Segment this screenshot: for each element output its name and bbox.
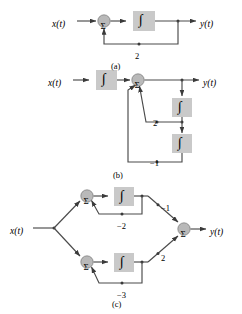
figure-canvas: x(t) y(t) Σ ∫ 2 (a) x(t) y(t) Σ ∫ ∫ ∫ 2 … <box>0 0 242 314</box>
sublabel-c: (c) <box>112 293 121 311</box>
input-label-a: x(t) <box>52 13 65 31</box>
gain-label-b-lower: −1 <box>150 152 159 170</box>
output-label-c: y(t) <box>210 221 223 239</box>
summer-symbol-b: Σ <box>135 74 140 92</box>
sublabel-a: (a) <box>111 55 120 73</box>
integrator-symbol-c-upper: ∫ <box>120 186 124 204</box>
sublabel-b: (b) <box>113 164 123 182</box>
output-label-a: y(t) <box>200 13 213 31</box>
integrator-symbol-b3: ∫ <box>178 133 182 151</box>
summer-symbol-c-upper: Σ <box>84 190 89 208</box>
output-label-b: y(t) <box>203 72 216 90</box>
gain-node-c-out-upper <box>157 203 160 206</box>
wire-split-to-lower-summer-c <box>54 228 80 256</box>
summer-symbol-c-output: Σ <box>181 223 186 241</box>
gain-label-c-output-lower: 2 <box>161 247 165 265</box>
integrator-symbol-c-lower: ∫ <box>120 252 124 270</box>
wire-split-to-upper-summer-c <box>54 201 80 228</box>
integrator-block-c-lower <box>114 253 134 272</box>
summer-symbol-a: Σ <box>101 15 106 33</box>
integrator-block-b3 <box>172 134 192 153</box>
gain-node-c-out-lower <box>157 252 160 255</box>
integrator-block-b1 <box>96 70 117 90</box>
input-label-b: x(t) <box>48 72 61 90</box>
integrator-symbol-a: ∫ <box>139 10 143 28</box>
integrator-symbol-b1: ∫ <box>102 69 106 87</box>
integrator-symbol-b2: ∫ <box>178 97 182 115</box>
summer-symbol-c-lower: Σ <box>84 256 89 274</box>
gain-label-a-feedback: 2 <box>135 45 139 63</box>
diagram-a <box>77 11 196 46</box>
gain-label-c-output-upper: −1 <box>161 197 170 215</box>
gain-label-b-upper: 2 <box>153 112 157 130</box>
input-label-c: x(t) <box>10 220 23 238</box>
gain-label-c-upper-feedback: −2 <box>117 215 126 233</box>
integrator-block-a <box>133 11 155 31</box>
integrator-block-c-upper <box>114 187 134 206</box>
integrator-block-b2 <box>172 98 192 117</box>
